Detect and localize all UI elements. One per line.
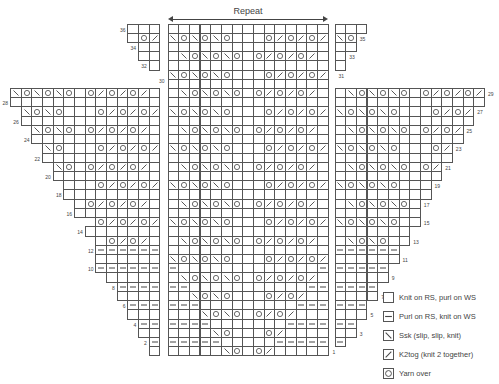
row-number-label: 4: [126, 322, 136, 328]
knit-stitch: [473, 97, 485, 107]
row-number-label: 25: [467, 128, 473, 134]
knit-stitch: [420, 189, 432, 199]
legend: Knit on RS, purl on WS Purl on RS, knit …: [383, 288, 499, 383]
row-number-label: 17: [424, 202, 430, 208]
yarn-over-icon: [383, 368, 394, 379]
row-number-label: 5: [371, 312, 374, 318]
knit-stitch: [317, 346, 329, 356]
row-number-label: 26: [9, 119, 19, 125]
knit-stitch: [441, 153, 453, 163]
arrow-left-icon: [168, 16, 173, 22]
row-number-label: 2: [137, 340, 147, 346]
row-number-label: 1: [333, 349, 336, 355]
row-number-label: 9: [392, 275, 395, 281]
arrow-right-icon: [323, 16, 328, 22]
knit-stitch: [388, 254, 400, 264]
row-number-label: 13: [413, 239, 419, 245]
row-number-label: 18: [51, 192, 61, 198]
row-number-label: 31: [339, 73, 345, 79]
knit-stitch: [356, 24, 368, 34]
row-number-label: 15: [424, 220, 430, 226]
knit-stitch: [345, 328, 357, 338]
row-number-label: 27: [477, 109, 483, 115]
knit-stitch: [399, 236, 411, 246]
ssk-icon: [383, 330, 394, 341]
knit-stitch: [377, 272, 389, 282]
repeat-label: Repeat: [168, 6, 328, 16]
row-number-label: 24: [19, 137, 29, 143]
row-number-label: 35: [360, 36, 366, 42]
legend-item-knit: Knit on RS, purl on WS: [383, 288, 499, 307]
legend-item-yarn-over: Yarn over: [383, 364, 499, 383]
legend-item-purl: Purl on RS, knit on WS: [383, 307, 499, 326]
row-number-label: 11: [403, 257, 408, 263]
purl-stitch: [335, 337, 347, 347]
row-number-label: 23: [456, 146, 462, 152]
knit-stitch: [452, 134, 464, 144]
knit-stitch: [431, 171, 443, 181]
row-number-label: 36: [115, 27, 125, 33]
row-number-label: 20: [41, 174, 51, 180]
row-number-label: 8: [105, 285, 115, 291]
row-number-label: 14: [73, 229, 83, 235]
knit-stitch: [345, 42, 357, 52]
knit-icon: [383, 292, 394, 303]
k2tog-icon: [383, 349, 394, 360]
row-number-label: 10: [83, 266, 93, 272]
purl-icon: [383, 311, 394, 322]
row-number-label: 30: [155, 78, 165, 84]
row-number-label: 28: [0, 100, 8, 106]
row-number-label: 22: [30, 156, 40, 162]
row-number-label: 34: [126, 45, 136, 51]
knit-stitch: [149, 346, 161, 356]
knit-stitch: [367, 291, 379, 301]
knit-stitch: [149, 60, 161, 70]
knit-stitch: [463, 116, 475, 126]
row-number-label: 21: [445, 165, 451, 171]
knit-stitch: [335, 60, 347, 70]
row-number-label: 32: [137, 63, 147, 69]
knit-stitch: [356, 309, 368, 319]
row-number-label: 19: [435, 183, 441, 189]
row-number-label: 33: [349, 54, 355, 60]
knit-stitch: [409, 217, 421, 227]
legend-item-ssk: Ssk (slip, slip, knit): [383, 326, 499, 345]
legend-item-k2tog: K2tog (knit 2 together): [383, 345, 499, 364]
repeat-line: [170, 19, 326, 20]
row-number-label: 12: [83, 248, 93, 254]
row-number-label: 3: [360, 331, 363, 337]
row-number-label: 16: [62, 211, 72, 217]
row-number-label: 29: [488, 91, 494, 97]
row-number-label: 6: [115, 303, 125, 309]
repeat-indicator: Repeat: [168, 6, 328, 22]
